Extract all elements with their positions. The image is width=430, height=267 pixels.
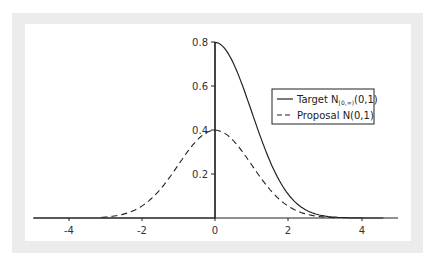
x-tick-label: -4 (64, 225, 74, 236)
chart-svg: -4 -2 0 2 4 0.2 0.4 0.6 0.8 Target N[0,∞… (0, 0, 430, 267)
y-tick-labels: 0.2 0.4 0.6 0.8 (192, 37, 208, 180)
x-tick-label: 2 (285, 225, 291, 236)
y-tick-label: 0.2 (192, 169, 208, 180)
x-tick-labels: -4 -2 0 2 4 (64, 225, 365, 236)
y-tick-label: 0.4 (192, 125, 208, 136)
legend: Target N[0,∞)(0,1) Proposal N(0,1) (272, 89, 378, 124)
proposal-curve (102, 130, 340, 218)
legend-proposal-label: Proposal N(0,1) (297, 110, 374, 121)
target-curve (34, 43, 384, 219)
x-tick-label: 4 (359, 225, 365, 236)
x-tick-label: -2 (137, 225, 147, 236)
y-tick-label: 0.6 (192, 81, 208, 92)
legend-target-label: Target N[0,∞)(0,1) (296, 94, 378, 106)
x-tick-label: 0 (212, 225, 218, 236)
y-tick-label: 0.8 (192, 37, 208, 48)
